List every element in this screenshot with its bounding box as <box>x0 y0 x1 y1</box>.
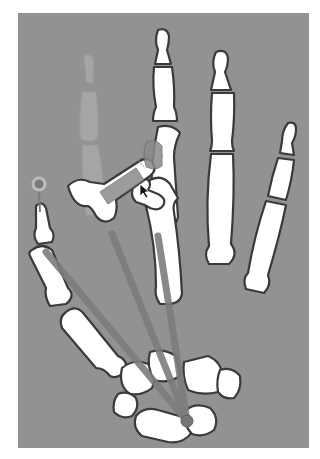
hand-skeleton <box>0 0 320 459</box>
hand-rig-canvas[interactable] <box>0 0 320 459</box>
ik-handle[interactable] <box>33 178 45 190</box>
wrist-pivot[interactable] <box>181 415 193 427</box>
ring-finger[interactable] <box>206 51 235 264</box>
ik-handle-stem <box>39 190 40 212</box>
little-finger[interactable] <box>244 123 296 293</box>
